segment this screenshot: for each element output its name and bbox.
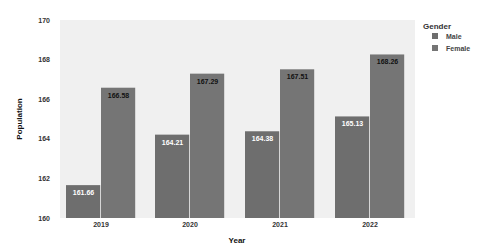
y-axis-title: Population [15,98,24,139]
x-tick-label: 2022 [362,221,378,228]
y-axis-ticks: 160162164166168170 [38,17,50,222]
legend-title: Gender [423,22,451,31]
bar-value-label: 167.29 [197,78,219,85]
legend: Gender Male Female [423,22,470,52]
legend-swatch-male [432,33,438,39]
bar-male-2022 [335,116,369,218]
legend-swatch-female [432,45,438,51]
y-tick-label: 160 [38,215,50,222]
y-tick-label: 166 [38,96,50,103]
legend-label-female: Female [446,45,470,52]
bar-value-label: 166.58 [108,92,130,99]
bar-value-label: 168.26 [377,58,399,65]
x-tick-label: 2019 [93,221,109,228]
y-tick-label: 162 [38,175,50,182]
bar-female-2022 [370,54,404,218]
x-axis-ticks: 2019202020212022 [93,221,378,228]
y-tick-label: 164 [38,135,50,142]
bar-value-label: 167.51 [287,73,309,80]
bar-chart: 160162164166168170 161.66166.58164.21167… [0,0,499,252]
bar-female-2019 [101,88,135,218]
bar-male-2020 [155,135,189,218]
bar-value-label: 164.21 [162,139,184,146]
bar-value-label: 165.13 [342,120,364,127]
bar-female-2020 [190,74,224,218]
y-tick-label: 170 [38,17,50,24]
bar-female-2021 [280,69,314,218]
y-tick-label: 168 [38,56,50,63]
bar-male-2021 [245,131,279,218]
bar-value-label: 161.66 [73,189,95,196]
x-axis-title: Year [229,236,246,245]
legend-label-male: Male [446,33,462,40]
x-tick-label: 2020 [182,221,198,228]
x-tick-label: 2021 [272,221,288,228]
bar-value-label: 164.38 [252,135,274,142]
